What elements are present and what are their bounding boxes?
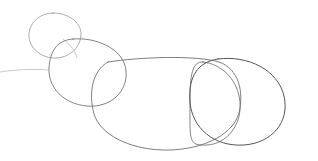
- sketch-drawing: [0, 0, 318, 161]
- paper-background: [0, 0, 318, 161]
- sketch-canvas: [0, 0, 318, 161]
